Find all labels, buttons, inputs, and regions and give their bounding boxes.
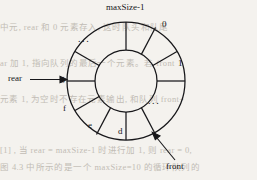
front-pointer-arrow: [152, 132, 175, 160]
cell-label-e: e: [88, 120, 92, 130]
divider-150deg: [142, 108, 156, 135]
divider-60deg: [153, 52, 177, 66]
label-index-0: 0: [162, 19, 167, 29]
label-front-pointer: front: [166, 161, 184, 171]
ellipsis-right: ...: [148, 95, 160, 106]
diagram-canvas: 中元, rear 和 0 元素存入, 这时队头和队尾 ar 加 1, 指向队列的…: [0, 0, 257, 180]
ring-buffer-graphic: [0, 0, 257, 180]
cell-label-f: f: [63, 103, 66, 113]
label-maxsize-minus-1: maxSize-1: [106, 2, 145, 12]
cell-label-d: d: [118, 126, 123, 136]
ellipsis-top-left: ...: [78, 33, 90, 44]
divider-30deg: [142, 28, 156, 55]
divider-240deg: [75, 97, 99, 111]
cell-label-g: g: [60, 73, 65, 83]
label-rear-pointer: rear: [8, 73, 22, 83]
label-index-1: 1: [178, 58, 183, 68]
divider-210deg: [97, 108, 111, 135]
divider-300deg: [75, 52, 99, 66]
